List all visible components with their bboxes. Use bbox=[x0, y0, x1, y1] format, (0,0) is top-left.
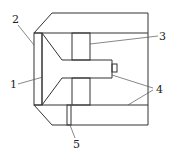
label-3: 3 bbox=[159, 30, 166, 43]
stem-tip bbox=[112, 64, 117, 72]
funnel-body bbox=[42, 33, 112, 105]
label-1: 1 bbox=[10, 78, 17, 91]
label-5: 5 bbox=[73, 138, 80, 151]
leader-2 bbox=[18, 25, 34, 45]
label-4: 4 bbox=[156, 83, 163, 96]
bottom-housing-wall bbox=[34, 105, 148, 125]
diagram-canvas: 1 2 3 4 5 bbox=[0, 0, 180, 160]
leader-4a bbox=[112, 75, 153, 88]
top-housing-wall bbox=[34, 13, 148, 33]
center-column-lower bbox=[72, 78, 90, 105]
bottom-vent bbox=[67, 105, 71, 125]
leader-1 bbox=[18, 77, 43, 84]
leader-4b bbox=[128, 90, 153, 105]
center-column-upper bbox=[72, 33, 90, 60]
leader-5 bbox=[70, 125, 75, 138]
front-plate bbox=[34, 33, 42, 105]
label-2: 2 bbox=[12, 13, 19, 26]
